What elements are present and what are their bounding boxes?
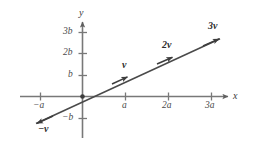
x-tick-label-2a: 2a — [162, 101, 172, 111]
vector-label-3v: 3v — [208, 21, 217, 31]
y-axis-label: y — [79, 8, 83, 18]
y-tick-label-2b: 2b — [63, 48, 73, 58]
origin-point — [80, 94, 85, 99]
y-tick-label-3b: 3b — [63, 27, 73, 37]
x-tick-label-minus-a: −a — [33, 101, 44, 111]
vector-label-2v: 2v — [162, 40, 171, 50]
vector-scalar-multiple-figure: x y −a a 2a 3a 3b 2b b −b v 2v 3v −v — [0, 0, 267, 145]
vector-label-minus-v: −v — [38, 124, 49, 134]
x-axis-label: x — [233, 91, 237, 101]
y-tick-label-b: b — [68, 70, 73, 80]
x-tick-label-3a: 3a — [205, 101, 215, 111]
y-tick-label-minus-b: −b — [62, 113, 73, 123]
vector-label-v: v — [122, 60, 126, 70]
vector-2v-arrow — [157, 57, 173, 64]
x-tick-label-a: a — [122, 101, 127, 111]
vector-3v-arrow — [203, 39, 219, 46]
